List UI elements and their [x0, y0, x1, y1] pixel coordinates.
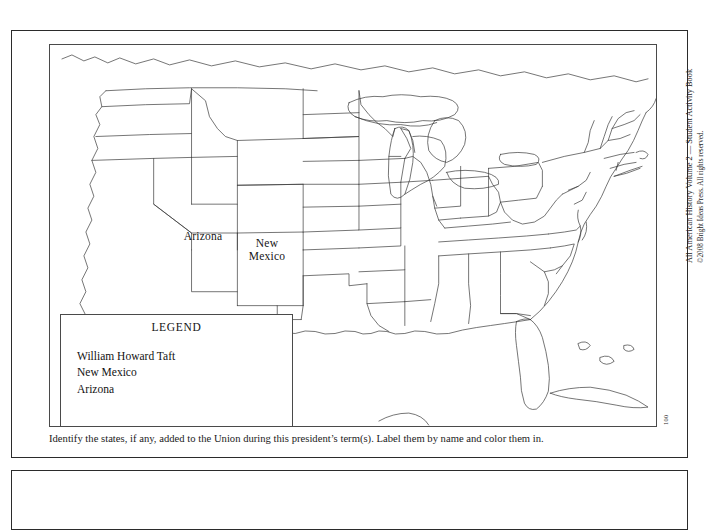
legend-item-list: William Howard Taft New Mexico Arizona — [77, 348, 175, 397]
instruction-text: Identify the states, if any, added to th… — [49, 433, 669, 444]
legend-item-state-new-mexico[interactable]: New Mexico — [77, 364, 175, 380]
credit-block: All American History Volume 2 — Student … — [659, 41, 687, 341]
legend-box: LEGEND William Howard Taft New Mexico Ar… — [60, 314, 293, 427]
credit-inner: All American History Volume 2 — Student … — [683, 37, 707, 263]
credit-line-title: All American History Volume 2 — Student … — [683, 37, 696, 263]
credit-line-copyright: ©2008 Bright Ideas Press. All rights res… — [696, 37, 707, 263]
page-number: 100 — [660, 401, 676, 427]
legend-item-state-arizona[interactable]: Arizona — [77, 381, 175, 397]
worksheet-panel: Arizona New Mexico LEGEND William Howard… — [11, 30, 688, 458]
map-label-arizona: Arizona — [168, 230, 238, 243]
legend-item-president[interactable]: William Howard Taft — [77, 348, 175, 364]
worksheet-panel-next — [11, 470, 688, 530]
map-label-new-mexico: New Mexico — [237, 237, 297, 263]
page-number-value: 100 — [662, 415, 669, 426]
map-frame: Arizona New Mexico LEGEND William Howard… — [49, 44, 657, 427]
legend-title: LEGEND — [61, 321, 292, 333]
